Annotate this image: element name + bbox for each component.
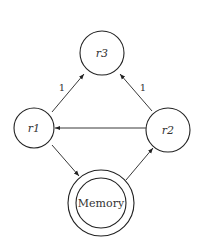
node-r3-label: r3 [96,47,108,60]
edge-memory-to-r2 [126,148,153,180]
node-r3: r3 [80,31,124,75]
edge-label-r2-r3: 1 [140,82,146,93]
node-memory: Memory [68,170,134,236]
edge-label-r1-r3: 1 [59,82,65,93]
node-r1: r1 [14,108,54,148]
node-r1-label: r1 [28,122,40,135]
edge-r1-to-r3 [52,74,84,112]
state-diagram: 1 1 r3 r1 r2 Memory [0,0,199,239]
node-r2-label: r2 [162,124,174,137]
node-r2: r2 [146,108,190,152]
node-memory-label: Memory [78,197,125,210]
edge-r2-to-r3 [120,74,152,111]
edge-r1-to-memory [52,145,79,176]
